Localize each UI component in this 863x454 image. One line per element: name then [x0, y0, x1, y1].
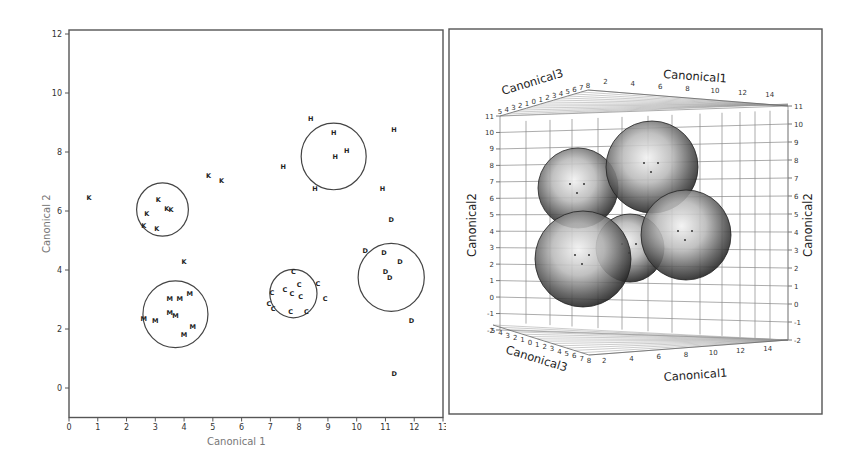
y-tick-label: 10	[52, 89, 62, 98]
y-tick-label-left: 0	[490, 294, 494, 302]
data-point	[691, 230, 693, 232]
data-point	[643, 162, 645, 164]
data-point-m: M	[172, 312, 178, 320]
data-point-c: C	[282, 286, 287, 294]
y-tick-label-left: -1	[487, 310, 494, 318]
y-tick-label-left: 1	[490, 277, 494, 285]
x-tick-label: 4	[182, 423, 187, 432]
z-tick-label-top: 8	[586, 82, 590, 90]
z-tick-label-bottom: 0	[528, 339, 532, 347]
y-axis-title-left: Canonical2	[465, 193, 479, 257]
x-tick-label-top: 12	[738, 89, 747, 97]
y-axis-title-right: Canonical2	[801, 193, 815, 257]
z-tick-label-bottom: 5	[491, 327, 495, 335]
z-tick-label-top: 5	[498, 108, 502, 116]
y-tick-label: 6	[57, 207, 62, 216]
x-tick-label-top: 4	[631, 80, 636, 88]
y-tick-label-left: 2	[490, 261, 494, 269]
y-tick-label: 0	[57, 384, 62, 393]
y-tick-label: 8	[57, 148, 62, 157]
y-tick-label-right: 0	[794, 301, 798, 309]
data-point-d: D	[381, 249, 387, 257]
y-tick-label-right: 1	[794, 283, 798, 291]
y-tick-label-right: -1	[794, 319, 801, 327]
z-tick-label-bottom: 2	[513, 334, 517, 342]
y-tick-label-left: 4	[490, 228, 495, 236]
data-point	[684, 239, 686, 241]
x-tick-label-bottom: 2	[602, 357, 606, 365]
data-point	[650, 171, 652, 173]
x-tick-label-bottom: 14	[763, 345, 772, 353]
left-scatter-panel: 024681012012345678910111213Canonical 2KK…	[0, 0, 446, 454]
z-tick-label-top: 3	[511, 104, 515, 112]
z-tick-label-bottom: 1	[520, 336, 524, 344]
x-tick-label-top: 8	[685, 85, 689, 93]
data-point	[569, 183, 571, 185]
x-tick-label-bottom: 4	[629, 355, 634, 363]
data-point-c: C	[291, 268, 296, 276]
data-point-d: D	[389, 216, 395, 224]
y-tick-label-left: 6	[490, 195, 495, 203]
data-point-m: M	[166, 295, 172, 303]
x-tick-label: 12	[409, 423, 419, 432]
data-point-h: H	[331, 129, 336, 137]
x-tick-label-bottom: 12	[736, 347, 745, 355]
y-tick-label-left: 11	[485, 113, 494, 121]
y-tick-label-right: 2	[794, 265, 798, 273]
data-point	[583, 183, 585, 185]
x-tick-label-top: 2	[603, 78, 607, 86]
z-tick-label-bottom: 3	[550, 345, 554, 353]
data-point-h: H	[308, 115, 313, 123]
z-tick-label-bottom: 3	[506, 332, 510, 340]
y-tick-label-right: 6	[794, 193, 799, 201]
y-tick-label-right: 11	[794, 103, 803, 111]
x-tick-label: 0	[66, 423, 71, 432]
data-point-d: D	[391, 370, 397, 378]
z-tick-label-bottom: 4	[557, 348, 562, 356]
z-tick-label-bottom: 6	[572, 352, 577, 360]
x-tick-label: 9	[325, 423, 330, 432]
y-axis-title: Canonical 2	[41, 194, 52, 253]
data-point-h: H	[391, 126, 396, 134]
y-tick-label-right: -2	[794, 337, 801, 345]
x-tick-label: 11	[380, 423, 390, 432]
x-tick-label: 13	[438, 423, 446, 432]
data-point-m: M	[187, 290, 193, 298]
z-tick-label-top: 0	[532, 98, 536, 106]
data-point-c: C	[288, 308, 293, 316]
y-tick-label-left: 9	[490, 145, 494, 153]
data-point-h: H	[332, 153, 337, 161]
data-point-c: C	[269, 289, 274, 297]
data-point-c: C	[298, 293, 303, 301]
y-tick-label-right: 7	[794, 175, 798, 183]
data-point	[677, 230, 679, 232]
data-point	[657, 162, 659, 164]
x-tick-label: 3	[153, 423, 158, 432]
y-tick-label-left: 5	[490, 211, 494, 219]
x-tick-label: 7	[268, 423, 273, 432]
y-tick-label-left: 10	[485, 129, 494, 137]
z-tick-label-top: 2	[545, 94, 549, 102]
scatter-plot-canonical: 024681012012345678910111213Canonical 2KK…	[0, 0, 446, 454]
data-point	[581, 263, 583, 265]
x-tick-label: 2	[124, 423, 129, 432]
data-point	[576, 192, 578, 194]
data-point-d: D	[397, 258, 403, 266]
data-point-h: H	[344, 147, 349, 155]
data-point-c: C	[315, 280, 320, 288]
data-point	[635, 243, 637, 245]
data-point-d: D	[363, 247, 369, 255]
y-tick-label: 2	[57, 325, 62, 334]
z-tick-label-bottom: 1	[535, 341, 539, 349]
y-tick-label-right: 5	[794, 211, 798, 219]
z-tick-label-top: 4	[505, 106, 510, 114]
data-point-c: C	[297, 281, 302, 289]
data-point-m: M	[181, 331, 187, 339]
3d-sphere-plot: -2-2-1-100112233445566778899101011112244…	[446, 0, 863, 454]
data-point-c: C	[290, 290, 295, 298]
z-tick-label-bottom: 5	[565, 350, 569, 358]
data-point-c: C	[304, 308, 309, 316]
x-tick-label-bottom: 6	[657, 353, 662, 361]
x-tick-label-bottom: 8	[684, 351, 688, 359]
sphere-lower-left	[535, 211, 631, 307]
